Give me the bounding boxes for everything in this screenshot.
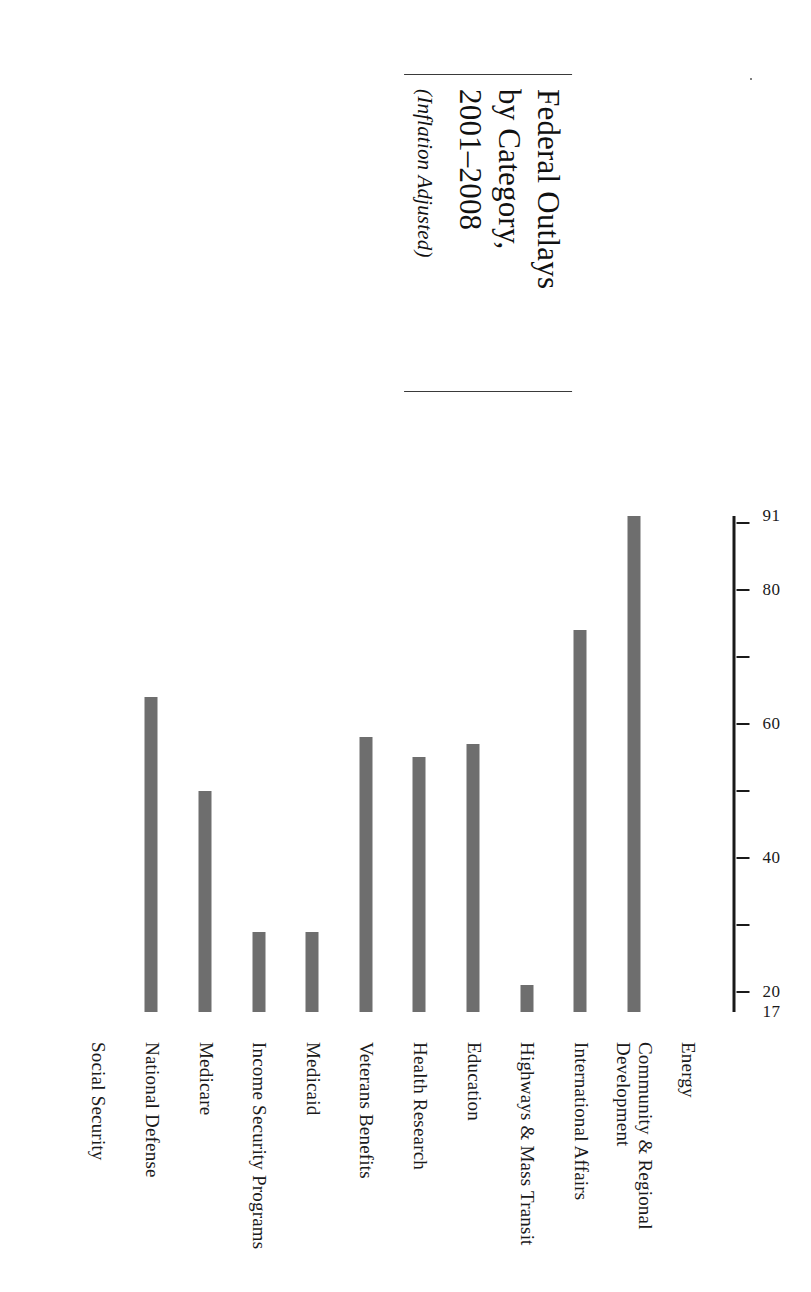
category-label-line: Medicare [193, 1042, 215, 1115]
axis-tick-label: 40 [762, 848, 780, 868]
bar [573, 630, 586, 1012]
category-label-line: Highways & Mass Transit [515, 1042, 537, 1246]
bar [466, 744, 479, 1012]
category-label-line: International Affairs [569, 1042, 591, 1200]
category-label-line: Veterans Benefits [354, 1042, 376, 1179]
category-label: Community & RegionalDevelopment [611, 1042, 656, 1230]
category-label: Income Security Programs [247, 1042, 269, 1249]
axis-tick [736, 589, 749, 591]
value-axis-line [733, 516, 736, 1012]
axis-tick-label: 91 [762, 506, 780, 526]
category-label-line: Energy [676, 1042, 698, 1098]
category-label: National Defense [140, 1042, 162, 1178]
category-label: Education [461, 1042, 483, 1121]
category-label-line: Education [461, 1042, 483, 1121]
category-label: Energy [676, 1042, 698, 1098]
bar [198, 791, 211, 1012]
bar [520, 985, 533, 1012]
title-line-3: 2001–2008 [451, 89, 490, 377]
bar [413, 757, 426, 1012]
category-label-line: Development [611, 1042, 633, 1230]
category-label-line: Health Research [408, 1042, 430, 1170]
axis-tick [736, 723, 749, 725]
category-label: International Affairs [569, 1042, 591, 1200]
title-line-1: Federal Outlays [529, 89, 568, 377]
page-subtitle: (Inflation Adjusted) [412, 89, 437, 377]
axis-tick-label: 20 [762, 982, 780, 1002]
category-label: Health Research [408, 1042, 430, 1170]
chart-figure: 172040608091 EnergyCommunity & RegionalD… [0, 0, 811, 1292]
axis-tick-label: 17 [762, 1002, 780, 1022]
axis-tick [736, 991, 749, 993]
axis-tick [736, 790, 749, 792]
axis-tick [736, 924, 749, 926]
category-label: Medicaid [301, 1042, 323, 1115]
axis-tick-label: 60 [762, 714, 780, 734]
bar [305, 932, 318, 1012]
bar [359, 737, 372, 1012]
axis-tick [736, 522, 749, 524]
category-label: Veterans Benefits [354, 1042, 376, 1179]
axis-tick [736, 857, 749, 859]
category-label: Social Security [86, 1042, 108, 1161]
title-inner: Federal Outlays by Category, 2001–2008 (… [404, 74, 572, 392]
page-title: Federal Outlays by Category, 2001–2008 [451, 89, 568, 377]
bar [252, 932, 265, 1012]
category-label: Medicare [193, 1042, 215, 1115]
bar [627, 516, 640, 1012]
title-block: Federal Outlays by Category, 2001–2008 (… [338, 72, 638, 394]
bar [145, 697, 158, 1012]
category-label-line: Income Security Programs [247, 1042, 269, 1249]
category-label-line: Social Security [86, 1042, 108, 1161]
category-label-line: Medicaid [301, 1042, 323, 1115]
category-label: Highways & Mass Transit [515, 1042, 537, 1246]
category-label-line: National Defense [140, 1042, 162, 1178]
axis-tick [736, 656, 749, 658]
axis-tick-label: 80 [762, 580, 780, 600]
category-label-line: Community & Regional [633, 1042, 655, 1230]
title-line-2: by Category, [490, 89, 529, 377]
